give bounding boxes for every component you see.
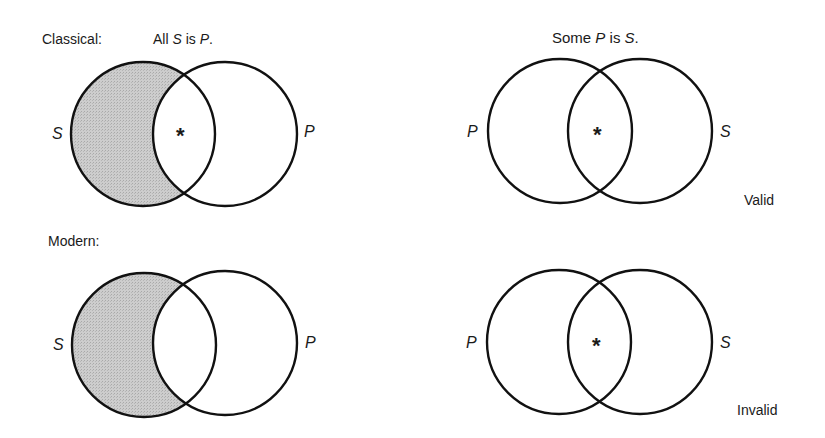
diagram3-left-label: S	[53, 336, 64, 354]
diagram3-right-label: P	[305, 334, 316, 352]
diagram1-asterisk-icon: *	[176, 125, 185, 147]
circle-s	[568, 270, 712, 414]
circle-p	[487, 270, 631, 414]
modern-premise-diagram	[72, 271, 297, 417]
diagram1-left-label: S	[52, 125, 63, 143]
diagram4-right-label: S	[720, 334, 731, 352]
circle-p	[488, 59, 632, 203]
venn-diagrams	[0, 0, 825, 438]
diagram2-right-label: S	[720, 123, 731, 141]
diagram2-asterisk-icon: *	[593, 124, 602, 146]
diagram1-right-label: P	[304, 123, 315, 141]
diagram2-left-label: P	[467, 123, 478, 141]
circle-s	[568, 59, 712, 203]
diagram4-asterisk-icon: *	[592, 335, 601, 357]
diagram4-left-label: P	[466, 334, 477, 352]
